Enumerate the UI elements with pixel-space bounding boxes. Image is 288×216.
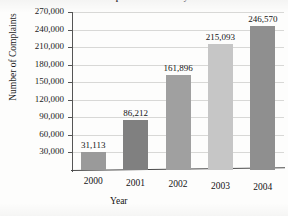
x-axis-tick-label: 2000 [70,176,116,186]
bar-value-label: 215,093 [194,32,246,42]
bar [208,44,233,170]
chart-figure: Complaints Received by the Federal Trade… [0,0,288,216]
bar [123,120,148,170]
bar-value-label: 86,212 [110,108,162,118]
x-axis-tick-label: 2002 [155,179,201,189]
bar-value-label: 31,113 [67,140,119,150]
bar [81,152,106,170]
y-axis-tick-label: 240,000 [6,24,64,34]
y-axis-tick-label: 180,000 [6,59,64,69]
bar [250,26,275,170]
y-axis-tick-label: 150,000 [6,76,64,86]
y-axis-tick-label: 270,000 [6,6,64,16]
y-axis-tick-label: 90,000 [6,111,64,121]
bar-value-label: 161,896 [152,63,204,73]
y-axis-tick-label: 120,000 [6,94,64,104]
x-axis-tick-label: 2001 [113,178,159,188]
x-axis-tick-label: 2004 [240,182,286,192]
x-axis-title: Year [110,196,128,206]
chart-title: Complaints Received by the Federal Trade… [98,0,288,2]
bar [166,75,191,170]
y-axis-tick-label: 30,000 [6,146,64,156]
y-axis-tick-label: 60,000 [6,129,64,139]
y-axis-tick-label: 210,000 [6,41,64,51]
x-axis-tick-label: 2003 [197,181,243,191]
bar-value-label: 246,570 [237,14,288,24]
